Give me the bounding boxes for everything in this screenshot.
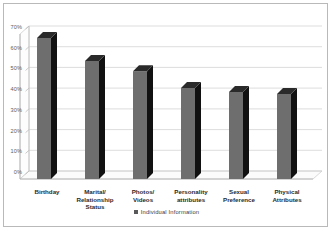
legend-swatch-icon [134, 210, 138, 214]
bar-photos-videos[interactable] [133, 65, 153, 179]
floor-plane [20, 171, 322, 179]
plot-area: 70% 60% 50% 40% 30% 20% 10% 0% Birthday … [4, 4, 329, 228]
y-tick-label-0: 0% [0, 169, 22, 175]
y-tick-label-40: 40% [0, 86, 22, 92]
legend-label-individual-information: Individual Information [141, 209, 199, 215]
chart-legend: Individual Information [4, 209, 329, 215]
bar-marital-relationship-status[interactable] [85, 55, 105, 179]
y-tick-label-30: 30% [0, 107, 22, 113]
bar-personality-attributes[interactable] [181, 82, 201, 179]
y-tick-label-50: 50% [0, 65, 22, 71]
x-category-label-physical-line1: Physical [254, 188, 320, 196]
chart-container: 70% 60% 50% 40% 30% 20% 10% 0% Birthday … [3, 3, 328, 227]
x-category-label-physical-attributes: Physical Attributes [254, 188, 320, 203]
x-category-label-physical-line2: Attributes [254, 196, 320, 204]
y-tick-label-70: 70% [0, 24, 22, 30]
bar-sexual-preference[interactable] [229, 86, 249, 179]
y-tick-label-20: 20% [0, 128, 22, 134]
bar-physical-attributes[interactable] [277, 88, 297, 179]
bar-birthday[interactable] [37, 32, 57, 179]
y-tick-label-60: 60% [0, 45, 22, 51]
y-tick-label-10: 10% [0, 148, 22, 154]
